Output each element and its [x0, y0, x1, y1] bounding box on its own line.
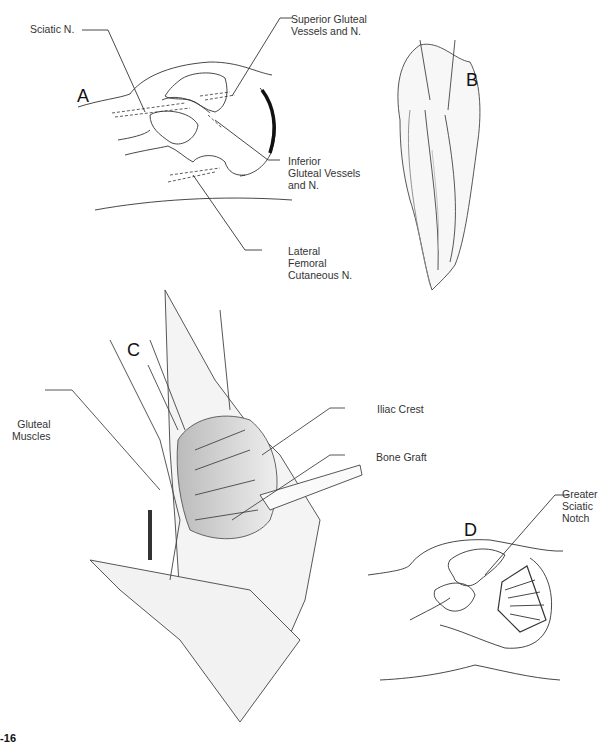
panel-letter-b: B	[466, 70, 478, 91]
panel-letter-a: A	[77, 86, 89, 107]
label-iliac-crest: Iliac Crest	[377, 403, 424, 415]
label-greater-sciatic-notch: Greater Sciatic Notch	[562, 488, 598, 524]
label-sciatic-nerve: Sciatic N.	[30, 23, 74, 35]
label-inferior-gluteal: Inferior Gluteal Vessels and N.	[288, 155, 360, 191]
panel-c-drawing	[45, 290, 362, 722]
panel-a-drawing	[78, 18, 292, 250]
label-bone-graft: Bone Graft	[376, 451, 427, 463]
figure-number: 8-16	[0, 732, 16, 744]
label-gluteal-muscles: Gluteal Muscles	[12, 418, 51, 442]
panel-letter-d: D	[464, 520, 477, 541]
label-superior-gluteal: Superior Gluteal Vessels and N.	[291, 13, 367, 37]
label-lateral-femoral-cutaneous: Lateral Femoral Cutaneous N.	[288, 245, 352, 281]
panel-letter-c: C	[127, 340, 140, 361]
